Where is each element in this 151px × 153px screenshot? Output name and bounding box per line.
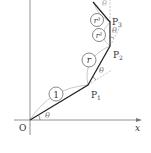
x-axis-label: x — [135, 123, 140, 133]
angle-label: θ — [99, 66, 104, 75]
segment-label-r: r — [87, 55, 92, 65]
angle-arc — [93, 77, 96, 80]
angle-arc — [39, 115, 41, 120]
point-label-p3: P3 — [112, 17, 122, 28]
angle-label: θ — [112, 26, 117, 35]
point-label-p1: P1 — [91, 90, 101, 101]
point-label-p2: P2 — [113, 50, 123, 61]
x-axis-arrow-icon — [136, 118, 142, 122]
spiral-polyline-diagram: 1 r r² r³ θ θ θ θ P1 P2 P3 O x — [0, 0, 151, 153]
segment-label-r3: r³ — [94, 16, 101, 25]
segment-label-1: 1 — [53, 90, 59, 100]
angle-label: θ — [102, 0, 107, 8]
angle-label: θ — [45, 111, 50, 120]
segment-label-r2: r² — [96, 31, 103, 40]
origin-label: O — [19, 123, 26, 133]
